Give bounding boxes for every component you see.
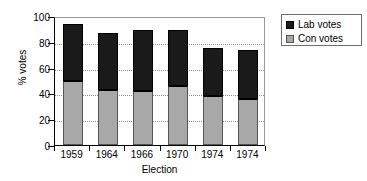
y-axis-tick-mark [48, 17, 54, 18]
bar-segment-con-votes[interactable] [133, 91, 153, 145]
x-axis-tick-mark [230, 146, 231, 151]
bar-group[interactable] [98, 33, 118, 145]
x-axis-tick-label: 1974 [227, 149, 267, 161]
bar-group[interactable] [168, 30, 188, 145]
bar-segment-con-votes[interactable] [203, 96, 223, 145]
bar-group[interactable] [238, 50, 258, 145]
bar-group[interactable] [133, 30, 153, 145]
x-axis-tick-label: 1974 [192, 149, 232, 161]
gray-square-icon [286, 35, 294, 43]
y-axis-tick-label: 80 [20, 38, 50, 49]
y-axis-tick-label: 40 [20, 89, 50, 100]
x-axis-tick-label: 1970 [157, 149, 197, 161]
bar-segment-lab-votes[interactable] [98, 33, 118, 90]
y-axis-tick-label: 0 [20, 141, 50, 152]
stacked-bar-chart: % votes 020406080100 1959196419661970197… [0, 0, 367, 181]
black-square-icon [286, 21, 294, 29]
x-axis-tick-mark [124, 146, 125, 151]
x-axis-tick-mark [54, 146, 55, 151]
x-axis-tick-labels: 195919641966197019741974 [54, 149, 265, 163]
chart-legend: Lab votesCon votes [281, 14, 362, 46]
y-axis-tick-label: 60 [20, 64, 50, 75]
y-axis-tick-mark [48, 69, 54, 70]
bars-layer [55, 18, 264, 145]
x-axis-tick-label: 1964 [87, 149, 127, 161]
x-axis-title: Election [54, 164, 265, 175]
bar-segment-lab-votes[interactable] [238, 50, 258, 99]
x-axis-tick-mark [89, 146, 90, 151]
legend-item-label: Con votes [298, 33, 343, 44]
bar-segment-lab-votes[interactable] [203, 48, 223, 96]
y-axis-tick-labels: 020406080100 [20, 11, 50, 151]
x-axis-tick-mark [265, 146, 266, 151]
plot-area [54, 17, 265, 146]
bar-segment-con-votes[interactable] [63, 81, 83, 146]
bar-segment-con-votes[interactable] [168, 86, 188, 145]
y-axis-tick-label: 100 [20, 12, 50, 23]
y-axis-tick-mark [48, 94, 54, 95]
bar-segment-lab-votes[interactable] [63, 24, 83, 81]
x-axis-tick-label: 1966 [122, 149, 162, 161]
y-axis-tick-label: 20 [20, 115, 50, 126]
x-axis-tick-label: 1959 [52, 149, 92, 161]
bar-segment-con-votes[interactable] [98, 90, 118, 145]
y-axis-tick-mark [48, 43, 54, 44]
legend-item-label: Lab votes [298, 19, 341, 30]
bar-segment-con-votes[interactable] [238, 99, 258, 145]
y-axis-tick-mark [48, 120, 54, 121]
bar-segment-lab-votes[interactable] [168, 30, 188, 85]
x-axis-tick-mark [195, 146, 196, 151]
legend-item[interactable]: Con votes [286, 32, 357, 45]
legend-item[interactable]: Lab votes [286, 18, 357, 31]
x-axis-tick-mark [160, 146, 161, 151]
bar-group[interactable] [203, 48, 223, 145]
bar-segment-lab-votes[interactable] [133, 30, 153, 91]
bar-group[interactable] [63, 24, 83, 145]
